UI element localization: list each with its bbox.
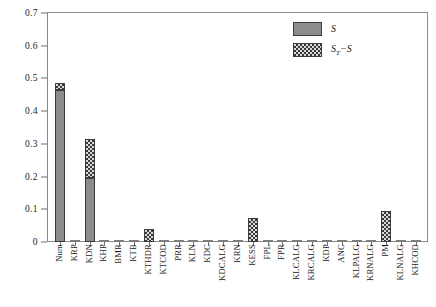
x-axis-label-prr: PRR bbox=[173, 244, 186, 261]
x-axis-label-bmr: BMR bbox=[113, 244, 126, 264]
y-axis-tick-label: 0.7 bbox=[25, 8, 38, 18]
y-axis-tick-label: 0.6 bbox=[25, 41, 38, 51]
y-axis-tick-label: 0.3 bbox=[25, 139, 38, 149]
x-axis-label-krcalg: KRCALG bbox=[306, 244, 319, 281]
y-axis-tick-mark bbox=[41, 13, 47, 14]
x-axis-label-pm: PM bbox=[380, 244, 393, 257]
x-axis-label-klcalg: KLCALG bbox=[291, 244, 304, 280]
x-axis-label-fpr: FPR bbox=[276, 244, 289, 260]
bar-segment-first-order bbox=[85, 178, 95, 242]
x-axis-label-klpalg: KLPALG bbox=[351, 244, 364, 278]
legend-swatch-checkered bbox=[293, 43, 322, 57]
bar-segment-interaction bbox=[55, 83, 65, 90]
legend-swatch-solid bbox=[293, 22, 322, 36]
chart-legend: SST−S bbox=[293, 20, 385, 62]
y-axis-tick-label: 0.5 bbox=[25, 73, 38, 83]
legend-label: S bbox=[331, 23, 336, 34]
y-axis-tick-mark bbox=[41, 143, 47, 144]
legend-label-suffix: −S bbox=[340, 43, 352, 54]
x-axis-labels: NumKRPKDNKHPBMRKTBKTHDRKTCODPRRKLNKDCKDC… bbox=[48, 244, 427, 307]
bar-segment-first-order bbox=[55, 90, 65, 242]
legend-item-st-minus-s: ST−S bbox=[293, 41, 385, 58]
x-axis-label-khp: KHP bbox=[98, 244, 111, 262]
y-axis-tick-mark bbox=[41, 209, 47, 210]
x-axis-label-krn: KRN bbox=[232, 244, 245, 263]
x-axis-label-klnalg: KLNALG bbox=[395, 244, 408, 281]
x-axis-label-ktcod: KTCOD bbox=[158, 244, 171, 275]
x-axis-label-krnalg: KRNALG bbox=[365, 244, 378, 281]
y-axis-tick-mark bbox=[41, 242, 47, 243]
y-axis-tick-mark bbox=[41, 45, 47, 46]
x-axis-label-kdc: KDC bbox=[202, 244, 215, 263]
y-axis-tick-mark bbox=[41, 78, 47, 79]
x-axis-label-kthdr: KTHDR bbox=[143, 244, 156, 275]
x-axis-label-fpl: FPL bbox=[262, 244, 275, 259]
y-axis-tick-mark bbox=[41, 111, 47, 112]
x-axis-label-krp: KRP bbox=[69, 244, 82, 261]
y-axis-tick-label: 0 bbox=[33, 237, 38, 247]
y-axis-tick-label: 0.1 bbox=[25, 204, 38, 214]
x-axis-label-kln: KLN bbox=[187, 244, 200, 262]
legend-label-base: S bbox=[331, 23, 336, 34]
x-axis-label-khcod: KHCOD bbox=[410, 244, 423, 276]
x-axis-label-anc: ANC bbox=[336, 244, 349, 263]
x-axis-label-ktb: KTB bbox=[128, 244, 141, 262]
y-axis-tick-mark bbox=[41, 176, 47, 177]
x-axis-label-kess: KESS bbox=[247, 244, 260, 266]
legend-item-s: S bbox=[293, 20, 385, 37]
x-axis-label-kdcalg: KDCALG bbox=[217, 244, 230, 281]
legend-label: ST−S bbox=[331, 43, 352, 57]
bar-segment-interaction bbox=[248, 218, 258, 242]
sensitivity-bar-chart: 00.10.20.30.40.50.60.7 NumKRPKDNKHPBMRKT… bbox=[0, 0, 436, 307]
bar-segment-interaction bbox=[85, 139, 95, 178]
bar-segment-interaction bbox=[144, 229, 154, 242]
bar-segment-interaction bbox=[381, 211, 391, 242]
x-axis-label-num: Num bbox=[54, 244, 67, 262]
x-axis-label-kdn: KDN bbox=[84, 244, 97, 263]
y-axis: 00.10.20.30.40.50.60.7 bbox=[0, 0, 47, 260]
y-axis-tick-label: 0.4 bbox=[25, 106, 38, 116]
y-axis-tick-label: 0.2 bbox=[25, 172, 38, 182]
x-axis-label-kdp: KDP bbox=[321, 244, 334, 262]
